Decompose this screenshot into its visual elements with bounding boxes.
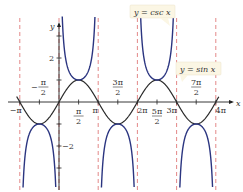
x-tick-label: 2 — [76, 117, 81, 126]
x-tick-label: 2 — [41, 88, 46, 97]
x-tick-label: 3π — [113, 78, 123, 87]
x-tick-label: 4π — [216, 106, 226, 115]
x-tick-label: 2 — [154, 117, 159, 126]
plot-area: −ππ2−π2π3π22π5π23π7π24π x y 2 −2 y = csc… — [0, 0, 243, 192]
y-axis-arrow-icon — [57, 22, 61, 27]
x-axis-label: x — [236, 99, 241, 108]
csc-label-callout: y = csc x — [130, 5, 175, 26]
x-tick-label: π — [93, 106, 98, 115]
x-tick-label: 5π — [152, 107, 162, 116]
x-tick-label: −π — [10, 106, 22, 115]
sin-csc-graph: −ππ2−π2π3π22π5π23π7π24π x y 2 −2 y = csc… — [0, 0, 243, 192]
x-tick-label: 2π — [137, 106, 147, 115]
x-tick-label: π — [76, 107, 81, 116]
x-tick-label: − — [31, 83, 38, 92]
y-tick-label-2: 2 — [49, 54, 54, 63]
y-tick-label-neg2: −2 — [62, 142, 74, 151]
axes — [8, 22, 234, 190]
csc-label: y = csc x — [133, 8, 171, 17]
y-axis-label: y — [49, 22, 55, 31]
x-tick-label: 2 — [194, 88, 199, 97]
x-tick-label: 7π — [191, 78, 201, 87]
x-axis-arrow-icon — [229, 100, 234, 104]
x-tick-label: 2 — [115, 88, 120, 97]
sin-label: y = sin x — [179, 65, 216, 74]
x-tick-label: π — [41, 78, 46, 87]
x-tick-label: 3π — [166, 106, 176, 115]
